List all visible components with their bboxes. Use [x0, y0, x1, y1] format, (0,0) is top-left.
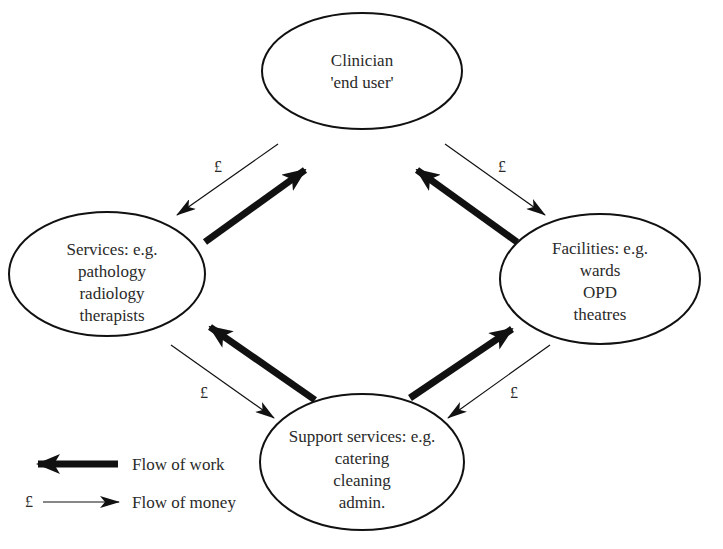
facilities-line-2: wards — [580, 261, 621, 280]
pound-label-clinician-facilities: £ — [498, 158, 506, 175]
legend-pound-symbol: £ — [25, 493, 33, 510]
work-arrow-services-to-clinician — [205, 170, 305, 242]
pound-label-clinician-services: £ — [214, 158, 222, 175]
support-line-2: catering — [335, 449, 390, 468]
work-arrow-facilities-to-clinician — [417, 170, 517, 242]
services-line-4: therapists — [79, 306, 144, 325]
clinician-line-2: 'end user' — [330, 73, 393, 92]
support-line-1: Support services: e.g. — [289, 427, 435, 446]
node-services: Services: e.g. pathology radiology thera… — [9, 212, 205, 336]
legend: Flow of work £ Flow of money — [25, 455, 236, 512]
facilities-line-4: theatres — [574, 305, 627, 324]
support-line-3: cleaning — [333, 471, 391, 490]
work-arrow-support-to-services — [210, 327, 315, 400]
facilities-line-3: OPD — [583, 283, 617, 302]
pound-label-facilities-support: £ — [510, 384, 518, 401]
legend-money-label: Flow of money — [132, 493, 236, 512]
services-line-1: Services: e.g. — [66, 240, 157, 259]
pound-label-services-support: £ — [200, 384, 208, 401]
diagram-canvas: Clinician 'end user' Services: e.g. path… — [0, 0, 723, 549]
money-arrow-facilities-to-support — [448, 345, 550, 418]
work-arrow-support-to-facilities — [410, 329, 512, 398]
legend-work-label: Flow of work — [132, 455, 225, 474]
node-clinician: Clinician 'end user' — [262, 13, 462, 129]
node-support-services: Support services: e.g. catering cleaning… — [260, 394, 464, 530]
facilities-line-1: Facilities: e.g. — [552, 239, 648, 258]
money-arrow-services-to-support — [171, 345, 274, 418]
services-line-2: pathology — [78, 262, 146, 281]
node-facilities: Facilities: e.g. wards OPD theatres — [500, 214, 700, 344]
support-line-4: admin. — [339, 493, 386, 512]
clinician-line-1: Clinician — [331, 51, 394, 70]
services-line-3: radiology — [79, 284, 145, 303]
